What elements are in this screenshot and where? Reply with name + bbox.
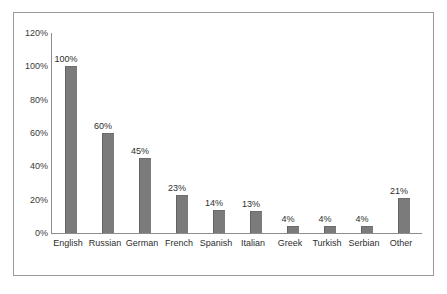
bar-value-label: 4% [308,214,342,224]
x-axis-category-labels: EnglishRussianGermanFrenchSpanishItalian… [51,238,422,252]
y-axis-tick-label: 100% [2,61,48,71]
bar-value-label: 4% [345,214,379,224]
bar [65,66,77,233]
bar [324,226,336,233]
bar-group: 21% [388,33,425,233]
bar [287,226,299,233]
bar [176,195,188,233]
bar [398,198,410,233]
bar-group: 45% [129,33,166,233]
bar [213,210,225,233]
bar-group: 13% [240,33,277,233]
y-axis-tick-label: 80% [2,95,48,105]
y-axis-tick-label: 0% [2,228,48,238]
bar-value-label: 23% [160,183,194,193]
bar-value-label: 100% [49,54,83,64]
bar-value-label: 60% [86,121,120,131]
bar [250,211,262,233]
bar-group: 100% [55,33,92,233]
bars-layer: 100%60%45%23%14%13%4%4%4%21% [51,33,422,233]
y-axis-tick-labels: 0%20%40%60%80%100%120% [0,0,48,294]
bar-group: 4% [351,33,388,233]
bar-group: 4% [277,33,314,233]
y-axis-tick-label: 120% [2,28,48,38]
bar [139,158,151,233]
bar-group: 60% [92,33,129,233]
x-axis-label-other: Other [379,238,423,249]
bar-group: 4% [314,33,351,233]
bar-value-label: 45% [123,146,157,156]
x-axis-line [51,233,422,234]
bar [361,226,373,233]
y-axis-tick-label: 20% [2,195,48,205]
bar [102,133,114,233]
y-axis-tick-label: 40% [2,161,48,171]
chart-figure: 0%20%40%60%80%100%120% 100%60%45%23%14%1… [0,0,447,294]
bar-value-label: 13% [234,199,268,209]
bar-value-label: 4% [271,214,305,224]
bar-value-label: 21% [382,186,416,196]
bar-value-label: 14% [197,198,231,208]
y-axis-tick-label: 60% [2,128,48,138]
